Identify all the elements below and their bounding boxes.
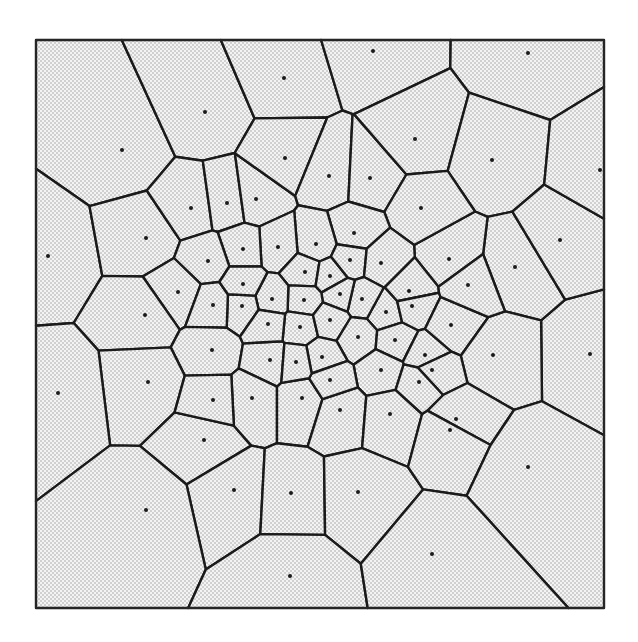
site-point xyxy=(454,417,458,421)
site-point xyxy=(206,259,210,263)
site-point xyxy=(241,247,245,251)
site-point xyxy=(189,206,193,210)
site-point xyxy=(430,368,434,372)
site-point xyxy=(254,197,258,201)
site-point xyxy=(240,304,244,308)
site-point xyxy=(417,380,421,384)
site-point xyxy=(413,137,417,141)
voronoi-cells xyxy=(36,40,604,608)
site-point xyxy=(303,270,307,274)
site-point xyxy=(211,398,215,402)
site-point xyxy=(348,258,352,262)
site-point xyxy=(384,310,388,314)
site-point xyxy=(430,552,434,556)
site-point xyxy=(526,51,530,55)
site-point xyxy=(513,265,517,269)
site-point xyxy=(144,236,148,240)
site-point xyxy=(407,289,411,293)
site-point xyxy=(338,292,342,296)
site-point xyxy=(423,353,427,357)
site-point xyxy=(270,297,274,301)
site-point xyxy=(328,274,332,278)
site-point xyxy=(282,76,286,80)
site-point xyxy=(203,110,207,114)
site-point xyxy=(388,412,392,416)
site-point xyxy=(379,368,383,372)
site-point xyxy=(146,380,150,384)
site-point xyxy=(144,508,148,512)
site-point xyxy=(302,298,306,302)
site-point xyxy=(466,283,470,287)
voronoi-cell xyxy=(260,443,325,535)
site-point xyxy=(232,488,236,492)
site-point xyxy=(241,282,245,286)
site-point xyxy=(327,174,331,178)
site-point xyxy=(368,176,372,180)
site-point xyxy=(490,158,494,162)
site-point xyxy=(210,348,214,352)
site-point xyxy=(225,201,229,205)
site-point xyxy=(300,396,304,400)
site-point xyxy=(371,49,375,53)
site-point xyxy=(289,491,293,495)
site-point xyxy=(356,335,360,339)
site-point xyxy=(491,353,495,357)
site-point xyxy=(410,304,414,308)
site-point xyxy=(143,313,147,317)
site-point xyxy=(56,391,60,395)
site-point xyxy=(356,490,360,494)
site-point xyxy=(288,574,292,578)
site-point xyxy=(379,261,383,265)
site-point xyxy=(298,325,302,329)
site-point xyxy=(526,465,530,469)
site-point xyxy=(120,148,124,152)
site-point xyxy=(283,156,287,160)
site-point xyxy=(393,338,397,342)
site-point xyxy=(598,168,602,172)
site-point xyxy=(328,378,332,382)
site-point xyxy=(447,257,451,261)
site-point xyxy=(176,290,180,294)
site-point xyxy=(338,408,342,412)
site-point xyxy=(558,238,562,242)
site-point xyxy=(449,323,453,327)
site-point xyxy=(360,297,364,301)
voronoi-diagram xyxy=(0,0,638,642)
site-point xyxy=(202,438,206,442)
site-point xyxy=(268,358,272,362)
site-point xyxy=(250,396,254,400)
site-point xyxy=(46,254,50,258)
site-point xyxy=(352,231,356,235)
site-point xyxy=(294,360,298,364)
site-point xyxy=(419,206,423,210)
site-point xyxy=(320,355,324,359)
site-point xyxy=(266,322,270,326)
site-point xyxy=(328,318,332,322)
site-point xyxy=(448,428,452,432)
site-point xyxy=(314,242,318,246)
site-point xyxy=(276,245,280,249)
site-point xyxy=(588,352,592,356)
site-point xyxy=(211,303,215,307)
